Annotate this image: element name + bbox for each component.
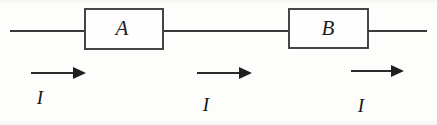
current-arrow-2-label: I xyxy=(202,94,211,115)
current-arrow-1-label: I xyxy=(36,87,45,108)
component-b: B xyxy=(289,9,368,48)
current-arrow-3-head xyxy=(391,65,404,77)
component-a-label: A xyxy=(114,16,129,40)
component-b-label: B xyxy=(322,16,335,40)
component-a: A xyxy=(85,9,163,49)
current-arrow-2: I xyxy=(197,67,252,115)
current-arrow-3: I xyxy=(351,65,404,116)
current-arrow-3-label: I xyxy=(357,95,366,116)
diagram-canvas: A B I I I xyxy=(0,0,437,125)
current-arrow-2-head xyxy=(239,67,252,79)
circuit-diagram-figure: A B I I I xyxy=(0,0,437,125)
current-arrow-1: I xyxy=(31,67,86,108)
current-arrow-1-head xyxy=(73,67,86,79)
